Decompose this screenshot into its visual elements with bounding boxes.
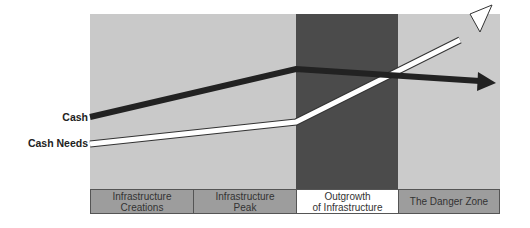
cash-needs-label: Cash Needs: [0, 137, 88, 149]
phase-label-creations: InfrastructureCreations: [90, 189, 194, 214]
phase-bg-danger-zone: [398, 14, 500, 189]
phase-label-line: Peak: [216, 202, 275, 213]
phase-label-line: Creations: [113, 202, 172, 213]
phase-label-peak: InfrastructurePeak: [193, 189, 297, 214]
phase-label-line: The Danger Zone: [410, 196, 488, 207]
phase-label-outgrowth: Outgrowthof Infrastructure: [296, 189, 399, 214]
cash-lifecycle-diagram: Cash Cash Needs InfrastructureCreations …: [0, 0, 530, 228]
cash-label: Cash: [30, 111, 88, 123]
phase-label-line: of Infrastructure: [312, 202, 382, 213]
phase-label-line: Infrastructure: [216, 191, 275, 202]
phase-label-danger-zone: The Danger Zone: [398, 189, 500, 214]
phase-label-line: Outgrowth: [312, 191, 382, 202]
phase-bg-outgrowth: [296, 14, 398, 189]
phase-label-line: Infrastructure: [113, 191, 172, 202]
phase-bg-creations-peak: [90, 14, 296, 189]
